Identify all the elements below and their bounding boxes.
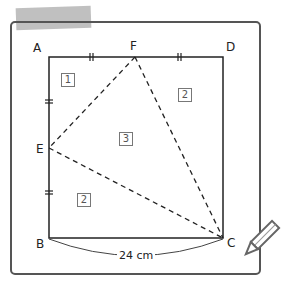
vertex-b: B (36, 238, 44, 250)
region-label-2-top: 2 (178, 88, 192, 102)
square-abcd (49, 57, 223, 238)
side-length-label: 24 cm (117, 250, 155, 261)
region-label-2-bottom: 2 (77, 193, 91, 207)
vertex-c: C (227, 237, 235, 249)
vertex-f: F (130, 40, 137, 52)
vertex-d: D (226, 41, 235, 53)
tape (16, 6, 92, 31)
vertex-a: A (33, 42, 41, 54)
region-label-3: 3 (119, 132, 133, 146)
dashed-triangle (49, 57, 223, 238)
vertex-e: E (36, 143, 44, 155)
region-label-1: 1 (61, 73, 75, 87)
